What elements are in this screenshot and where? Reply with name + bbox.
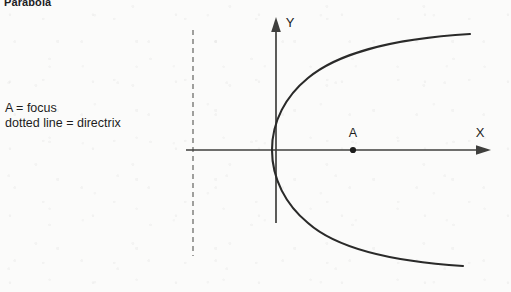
- y-axis-arrowhead: [271, 17, 281, 32]
- y-axis-label: Y: [286, 15, 295, 30]
- x-axis-arrowhead: [476, 145, 491, 155]
- parabola-upper-branch: [272, 34, 470, 150]
- parabola-lower-branch: [272, 150, 463, 266]
- parabola-diagram: X Y A: [0, 0, 511, 292]
- focus-point-label: A: [349, 126, 358, 140]
- focus-point-marker: [350, 147, 356, 153]
- parabola-figure-page: Parabola A = focus dotted line = directr…: [0, 0, 511, 292]
- x-axis-label: X: [476, 125, 485, 140]
